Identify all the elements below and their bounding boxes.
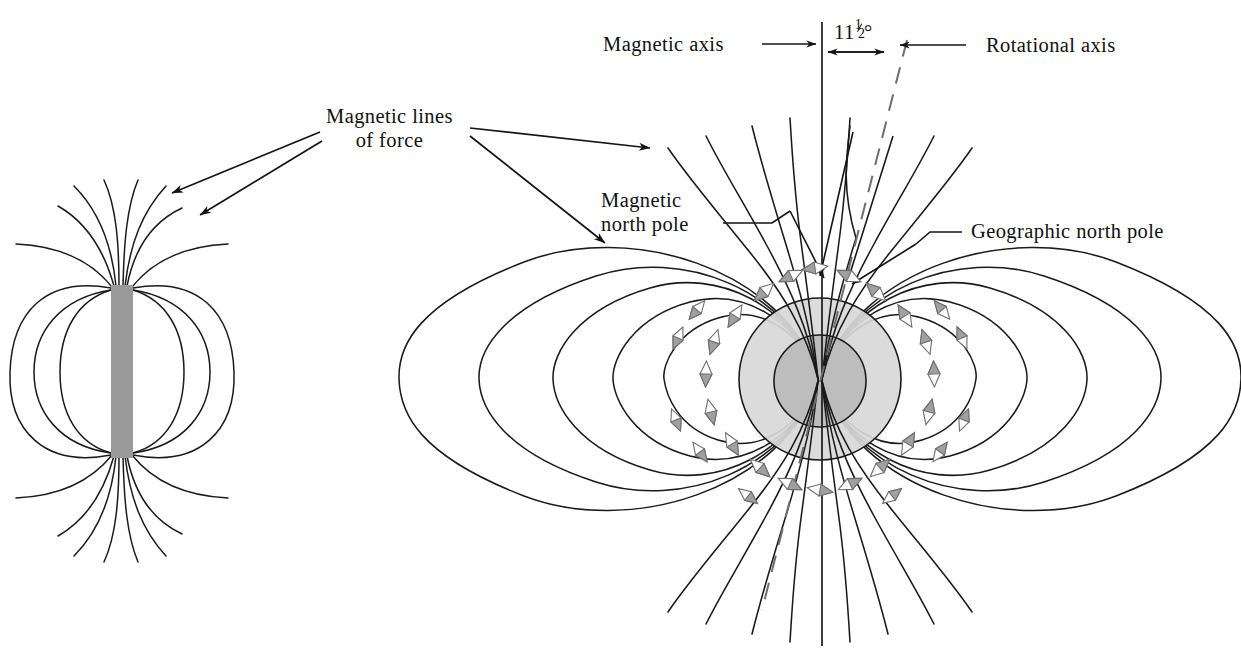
tilt-angle-denominator: 2 [858,26,865,42]
tilt-angle-whole: 11 [834,21,855,43]
tilt-angle-fraction: 12 [855,21,864,36]
compass-needle-icon [688,439,711,465]
leader-arrow-left-upper [172,132,320,193]
compass-needle-icon [702,398,720,426]
tilt-angle-label: 1112° [834,20,873,44]
compass-needle-icon [952,325,972,351]
leader-arrows-left [172,132,322,215]
magnetic-field-diagram: Magnetic lines of force Magnetic axis Ro… [0,0,1241,663]
compass-needle-icon [916,328,935,356]
geographic-north-pole-label: Geographic north pole [971,219,1164,243]
compass-needle-icon [704,328,723,356]
bar-magnet [111,285,133,458]
compass-needle-icon [930,297,954,322]
diagram-canvas [0,0,1241,663]
compass-needle-icon [920,398,938,426]
compass-needle-icon [777,265,806,287]
magnetic-north-pole-line2: north pole [601,212,689,236]
rotational-axis-label: Rotational axis [986,33,1116,57]
compass-needle-icon [776,473,805,495]
compass-needle-icon [735,484,761,507]
compass-needle-icon [879,484,905,507]
compass-needle-icon [806,482,834,498]
magnetic-lines-of-force-line1: Magnetic lines [326,104,453,128]
magnetic-axis-label: Magnetic axis [603,32,724,56]
compass-needle-icon [928,439,951,465]
compass-needle-icon [836,473,865,495]
compass-needle-icon [668,325,688,351]
leader-arrow-right-lower [470,136,605,243]
compass-needle-icon [928,361,941,387]
magnetic-north-pole-line1: Magnetic [601,188,689,212]
leader-arrow-right-upper [470,128,650,148]
geographic-north-pole-leader [852,232,962,284]
compass-needle-icon [700,361,713,387]
magnetic-lines-of-force-label: Magnetic lines of force [326,104,453,152]
magnetic-lines-of-force-line2: of force [326,128,453,152]
leader-arrow-left-lower [200,141,322,215]
magnetic-north-pole-label: Magnetic north pole [601,188,689,236]
